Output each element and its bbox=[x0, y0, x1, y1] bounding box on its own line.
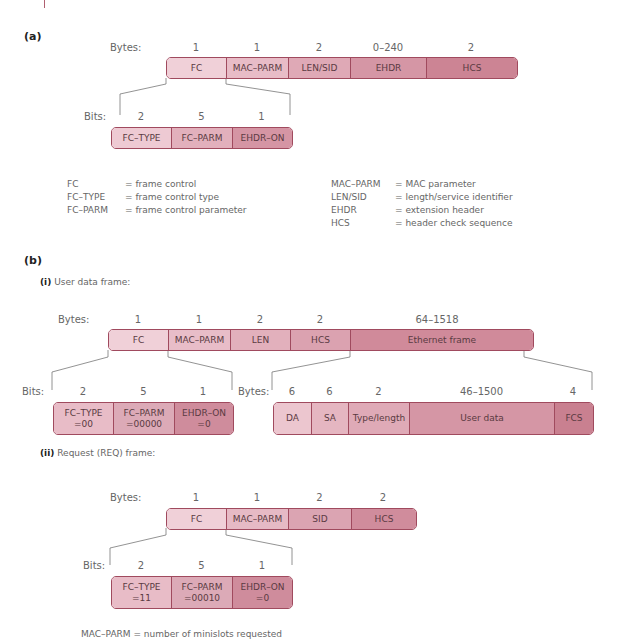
bracket-a-left bbox=[120, 78, 166, 115]
legend-right: MAC–PARM= MAC parameter LEN/SID= length/… bbox=[331, 178, 513, 230]
bit-count: 5 bbox=[113, 386, 174, 397]
bytes-label: Bytes: bbox=[110, 492, 141, 503]
bit-count: 1 bbox=[174, 386, 232, 397]
byte-count: 2 bbox=[288, 42, 350, 53]
bytes-label: Bytes: bbox=[58, 314, 89, 325]
bit-count: 2 bbox=[111, 111, 171, 122]
byte-count: 2 bbox=[351, 492, 415, 503]
byte-count: 6 bbox=[273, 386, 311, 397]
byte-count: 64–1518 bbox=[350, 314, 524, 325]
byte-count: 0–240 bbox=[350, 42, 426, 53]
fc-bits-frame-bii: FC–TYPE=11 FC–PARM=00010 EHDR–ON=0 bbox=[111, 576, 293, 609]
header-frame-a: FC MAC–PARM LEN/SID EHDR HCS bbox=[166, 57, 518, 79]
fc-bits-frame-bi: FC–TYPE=00 FC–PARM=00000 EHDR–ON=0 bbox=[53, 402, 234, 435]
legend-item: MAC–PARM= MAC parameter bbox=[331, 178, 513, 191]
byte-count: 6 bbox=[311, 386, 348, 397]
byte-count: 1 bbox=[226, 492, 288, 503]
bit-count: 2 bbox=[111, 560, 171, 571]
field-ehdr-on: EHDR–ON=0 bbox=[175, 403, 233, 434]
byte-count: 1 bbox=[166, 42, 226, 53]
ethernet-frame-detail: DA SA Type/length User data FCS bbox=[273, 402, 594, 435]
section-b-label: (b) bbox=[24, 254, 42, 267]
field-hcs: HCS bbox=[352, 509, 416, 529]
legend-item: HCS= header check sequence bbox=[331, 217, 513, 230]
bytes-label: Bytes: bbox=[110, 42, 141, 53]
bracket-bi-left bbox=[52, 350, 108, 390]
bracket-eth-right bbox=[524, 350, 592, 390]
bits-label: Bits: bbox=[83, 560, 105, 571]
request-frame-title: (ii) Request (REQ) frame: bbox=[40, 448, 155, 458]
field-fcs: FCS bbox=[555, 403, 593, 434]
legend-item: FC–TYPE= frame control type bbox=[67, 191, 247, 204]
byte-count: 2 bbox=[230, 314, 290, 325]
bits-label: Bits: bbox=[84, 111, 106, 122]
byte-count: 1 bbox=[108, 314, 168, 325]
field-len-sid: LEN/SID bbox=[289, 58, 351, 78]
legend-item: LEN/SID= length/service identifier bbox=[331, 191, 513, 204]
field-fc: FC bbox=[167, 509, 227, 529]
bit-count: 5 bbox=[171, 560, 232, 571]
bracket-eth-left bbox=[272, 350, 350, 390]
field-mac-parm: MAC–PARM bbox=[227, 58, 289, 78]
user-data-frame: FC MAC–PARM LEN HCS Ethernet frame bbox=[108, 329, 534, 351]
legend-item: EHDR= extension header bbox=[331, 204, 513, 217]
bits-label: Bits: bbox=[22, 386, 44, 397]
byte-count: 2 bbox=[288, 492, 351, 503]
bit-count: 1 bbox=[232, 111, 291, 122]
request-note: MAC–PARM = number of minislots requested bbox=[81, 628, 282, 641]
legend-item: FC–PARM= frame control parameter bbox=[67, 204, 247, 217]
field-ehdr: EHDR bbox=[351, 58, 427, 78]
field-fc-parm: FC–PARM=00010 bbox=[172, 577, 233, 608]
field-mac-parm: MAC–PARM bbox=[169, 330, 231, 350]
field-fc: FC bbox=[167, 58, 227, 78]
field-ehdr-on: EHDR–ON bbox=[233, 128, 292, 148]
byte-count: 1 bbox=[168, 314, 230, 325]
bit-count: 1 bbox=[232, 560, 292, 571]
field-fc-type: FC–TYPE bbox=[112, 128, 172, 148]
field-da: DA bbox=[274, 403, 312, 434]
field-hcs: HCS bbox=[427, 58, 517, 78]
byte-count: 4 bbox=[554, 386, 592, 397]
bytes-label: Bytes: bbox=[238, 386, 269, 397]
byte-count: 2 bbox=[290, 314, 350, 325]
field-fc: FC bbox=[109, 330, 169, 350]
bracket-bi-right bbox=[168, 350, 232, 390]
fc-bits-frame-a: FC–TYPE FC–PARM EHDR–ON bbox=[111, 127, 293, 149]
bit-count: 5 bbox=[171, 111, 232, 122]
field-fc-parm: FC–PARM=00000 bbox=[114, 403, 175, 434]
byte-count: 2 bbox=[348, 386, 409, 397]
field-fc-type: FC–TYPE=11 bbox=[112, 577, 172, 608]
field-ethernet-frame: Ethernet frame bbox=[351, 330, 533, 350]
request-frame: FC MAC–PARM SID HCS bbox=[166, 508, 417, 530]
field-sid: SID bbox=[289, 509, 352, 529]
field-type-length: Type/length bbox=[349, 403, 410, 434]
section-a-label: (a) bbox=[24, 30, 41, 43]
field-user-data: User data bbox=[410, 403, 555, 434]
byte-count: 2 bbox=[426, 42, 516, 53]
legend-left: FC= frame control FC–TYPE= frame control… bbox=[67, 178, 247, 217]
field-fc-type: FC–TYPE=00 bbox=[54, 403, 114, 434]
field-ehdr-on: EHDR–ON=0 bbox=[233, 577, 292, 608]
field-sa: SA bbox=[312, 403, 349, 434]
legend-item: FC= frame control bbox=[67, 178, 247, 191]
bracket-a-right bbox=[226, 78, 290, 115]
user-data-frame-title: (i) User data frame: bbox=[40, 277, 130, 287]
field-fc-parm: FC–PARM bbox=[172, 128, 233, 148]
field-len: LEN bbox=[231, 330, 291, 350]
field-hcs: HCS bbox=[291, 330, 351, 350]
bit-count: 2 bbox=[53, 386, 113, 397]
byte-count: 1 bbox=[166, 492, 226, 503]
byte-count: 46–1500 bbox=[409, 386, 554, 397]
byte-count: 1 bbox=[226, 42, 288, 53]
field-mac-parm: MAC–PARM bbox=[227, 509, 289, 529]
